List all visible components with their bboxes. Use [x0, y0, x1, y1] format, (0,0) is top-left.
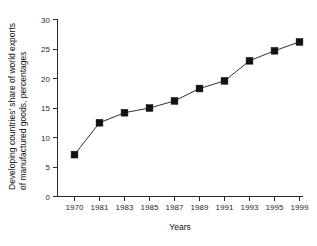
y-tick-label: 20	[41, 75, 50, 84]
y-axis-title-line2: of manufactured goods, percentages	[18, 52, 28, 190]
x-tick-label: 1999	[291, 203, 309, 212]
data-point-marker	[271, 47, 278, 54]
line-chart: 30 25 20 15 10 5 0 1970 1981 1983 1985	[0, 0, 317, 246]
data-point-marker	[246, 57, 253, 64]
x-tick-label: 1989	[191, 203, 209, 212]
data-point-marker	[71, 151, 78, 158]
data-point-marker	[196, 85, 203, 92]
x-tick-label: 1993	[241, 203, 259, 212]
x-tick-label: 1981	[91, 203, 109, 212]
x-tick-label: 1995	[266, 203, 284, 212]
x-tick-label: 1983	[116, 203, 134, 212]
data-point-marker	[296, 39, 303, 46]
x-tick-label: 1991	[216, 203, 234, 212]
x-axis-title: Years	[169, 222, 190, 232]
y-tick-label: 30	[41, 16, 50, 25]
data-point-marker	[96, 119, 103, 126]
y-tick-label: 25	[41, 45, 50, 54]
x-tick-label: 1970	[66, 203, 84, 212]
y-tick-label: 5	[46, 163, 51, 172]
x-tick-label: 1987	[166, 203, 184, 212]
chart-container: 30 25 20 15 10 5 0 1970 1981 1983 1985	[0, 0, 317, 246]
data-point-marker	[221, 77, 228, 84]
y-tick-label: 15	[41, 104, 50, 113]
data-point-marker	[121, 109, 128, 116]
y-axis-title-line1: Developing countries' share of world exp…	[7, 23, 17, 190]
y-tick-label: 10	[41, 134, 50, 143]
data-point-marker	[146, 105, 153, 112]
y-tick-label: 0	[46, 193, 51, 202]
x-tick-label: 1985	[141, 203, 159, 212]
data-point-marker	[171, 98, 178, 105]
